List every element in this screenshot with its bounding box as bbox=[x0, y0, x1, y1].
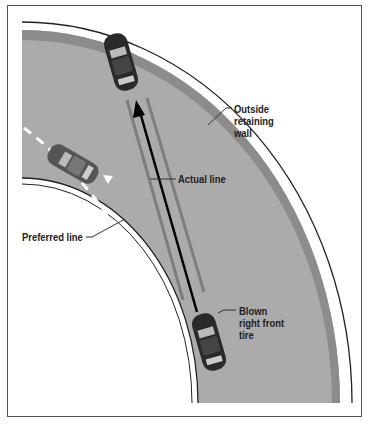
label-preferred-line: Preferred line bbox=[22, 231, 83, 243]
leader-preferred-line bbox=[86, 219, 125, 237]
label-line: wall bbox=[234, 127, 274, 139]
label-line: retaining bbox=[234, 115, 274, 127]
curve-diagram bbox=[0, 0, 371, 425]
label-actual-line: Actual line bbox=[178, 173, 226, 185]
label-line: right front bbox=[239, 317, 284, 329]
label-line: Outside bbox=[234, 103, 274, 115]
label-outside-wall: Outside retaining wall bbox=[234, 103, 274, 139]
label-blown-tire: Blown right front tire bbox=[239, 305, 284, 341]
label-line: tire bbox=[239, 329, 284, 341]
label-line: Blown bbox=[239, 305, 284, 317]
